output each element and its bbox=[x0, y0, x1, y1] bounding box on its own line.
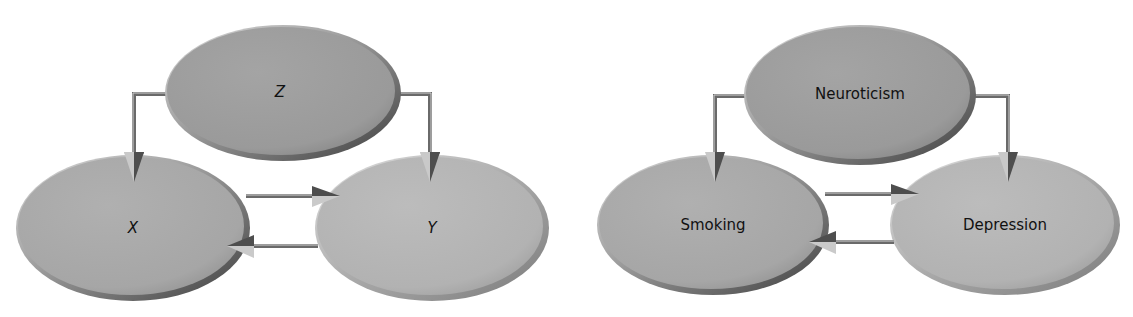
node-neuroticism-label: Neuroticism bbox=[815, 85, 905, 103]
node-smoking-label: Smoking bbox=[680, 216, 745, 234]
node-depression-label: Depression bbox=[963, 216, 1047, 234]
node-depression: Depression bbox=[890, 155, 1120, 295]
causal-diagrams: Z X Y bbox=[0, 0, 1133, 317]
node-y: Y bbox=[315, 155, 549, 301]
node-x-label: X bbox=[127, 219, 139, 237]
diagram-generic: Z X Y bbox=[16, 25, 549, 301]
diagram-example: Neuroticism Smoking Depression bbox=[597, 25, 1120, 295]
node-neuroticism: Neuroticism bbox=[744, 25, 976, 165]
node-z: Z bbox=[165, 25, 401, 161]
node-z-label: Z bbox=[274, 83, 286, 101]
